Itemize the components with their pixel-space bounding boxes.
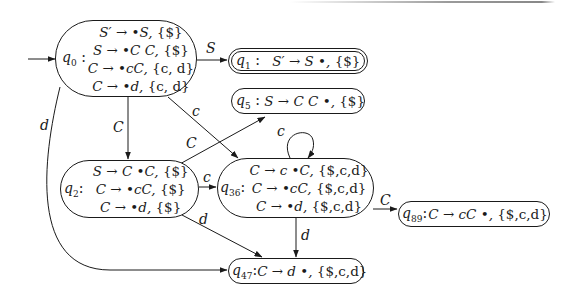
lr-item: S′ → S •, {$}	[272, 51, 360, 71]
edge-label-q0-q1: S	[206, 41, 216, 55]
edge-label-q0-q36: c	[192, 104, 200, 118]
edge-q2-q47	[182, 215, 262, 257]
state-q1: q1 : S′ → S •, {$}	[228, 48, 368, 74]
lr-item: C → •cC, {$,c,d}	[252, 179, 367, 197]
lr-item: S → •C C, {$}	[93, 41, 189, 59]
edge-label-q0-q47: d	[40, 118, 49, 132]
edge-label-q2-q36: c	[203, 170, 211, 184]
state-label: q89:	[399, 205, 427, 224]
state-q2: q2: S → C •C, {$} C → •cC, {$} C → •d, {…	[60, 160, 199, 218]
state-label: q0 :	[56, 49, 86, 68]
lr-item: C → •d, {$}	[100, 198, 181, 216]
state-label: q47:	[229, 262, 257, 281]
edge-label-q2-q47: d	[199, 212, 208, 226]
edge-q0-q36	[168, 97, 238, 158]
state-q89: q89: C → cC •, {$,c,d}	[398, 201, 550, 227]
state-label: q1 :	[232, 52, 269, 71]
edge-label-q0-q2: C	[113, 120, 124, 134]
item-list: C → cC •, {$,c,d}	[427, 204, 549, 224]
state-q0: q0 : S′ → •S, {$} S → •C C, {$} C → •cC,…	[55, 20, 197, 97]
edge-q36-q36	[287, 133, 313, 158]
edge-label-q36-q89: C	[380, 193, 391, 207]
lr-item: S → C •C, {$}	[93, 162, 189, 180]
lr-item: C → •d, {c, d}	[92, 77, 189, 95]
lr-item: C → c •C, {$,c,d}	[250, 161, 369, 179]
item-list: S → C C •, {$}	[264, 91, 365, 111]
edge-label-q36-q36: c	[277, 124, 285, 138]
state-q47: q47: C → d •, {$,c,d}	[228, 258, 364, 284]
lr-item: C → •cC, {$}	[96, 180, 186, 198]
state-label: q2:	[61, 180, 83, 199]
state-label: q5 :	[232, 92, 264, 111]
lr-item: C → •d, {$,c,d}	[256, 197, 362, 215]
edge-label-q36-q47: d	[301, 228, 310, 242]
lr-item: C → cC •, {$,c,d}	[428, 204, 548, 224]
state-q5: q5 : S → C C •, {$}	[231, 88, 365, 114]
state-q36: q36: C → c •C, {$,c,d} C → •cC, {$,c,d} …	[217, 158, 374, 218]
state-label: q36:	[218, 179, 245, 198]
item-list: C → d •, {$,c,d}	[257, 261, 367, 281]
lr-item: C → d •, {$,c,d}	[257, 261, 367, 281]
item-list: S → C •C, {$} C → •cC, {$} C → •d, {$}	[83, 162, 198, 216]
lr-item: S′ → •S, {$}	[99, 23, 182, 41]
item-list: C → c •C, {$,c,d} C → •cC, {$,c,d} C → •…	[245, 161, 373, 215]
lr-item: S → C C •, {$}	[264, 91, 365, 111]
edge-label-q2-q5: C	[186, 136, 197, 150]
item-list: S′ → S •, {$}	[269, 51, 364, 71]
lr-item: C → •cC, {c, d}	[88, 59, 194, 77]
item-list: S′ → •S, {$} S → •C C, {$} C → •cC, {c, …	[86, 23, 196, 95]
